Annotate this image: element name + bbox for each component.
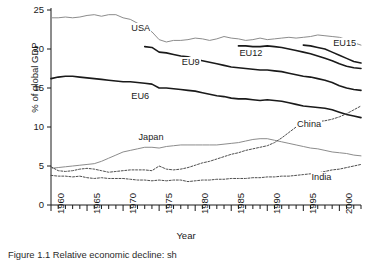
series-label-china: China xyxy=(296,119,322,129)
series-line-japan xyxy=(51,139,361,169)
y-tick-label: 25 xyxy=(20,4,44,15)
y-tick-label: 20 xyxy=(20,43,44,54)
series-lines xyxy=(51,15,361,182)
x-tick-label: 1990 xyxy=(271,193,282,214)
y-tick-label: 15 xyxy=(20,82,44,93)
y-tick-label: 0 xyxy=(20,199,44,210)
figure-container: % of global GDP Year 0510152025 19601965… xyxy=(0,0,372,260)
x-tick-label: 1970 xyxy=(127,193,138,214)
y-tick-label: 5 xyxy=(20,160,44,171)
x-tick-label: 1985 xyxy=(235,193,246,214)
series-label-japan: Japan xyxy=(138,132,165,142)
series-label-eu6: EU6 xyxy=(130,91,150,101)
series-label-india: India xyxy=(311,172,333,182)
x-tick-label: 1965 xyxy=(91,193,102,214)
series-label-eu9: EU9 xyxy=(181,57,201,67)
x-tick-label: 1980 xyxy=(199,193,210,214)
x-tick-label: 1975 xyxy=(163,193,174,214)
x-tick-label: 2000 xyxy=(343,193,354,214)
y-axis-title: % of global GDP xyxy=(29,18,40,138)
x-tick-label: 1995 xyxy=(307,193,318,214)
series-line-usa xyxy=(51,15,361,45)
figure-caption: Figure 1.1 Relative economic decline: sh xyxy=(8,249,368,260)
series-label-eu15: EU15 xyxy=(332,38,357,48)
series-label-usa: USA xyxy=(130,23,151,33)
series-label-eu12: EU12 xyxy=(238,48,263,58)
x-axis-title: Year xyxy=(0,230,372,241)
line-chart xyxy=(0,0,372,260)
y-tick-label: 10 xyxy=(20,121,44,132)
series-line-eu6 xyxy=(51,76,361,117)
x-tick-label: 1960 xyxy=(55,193,66,214)
